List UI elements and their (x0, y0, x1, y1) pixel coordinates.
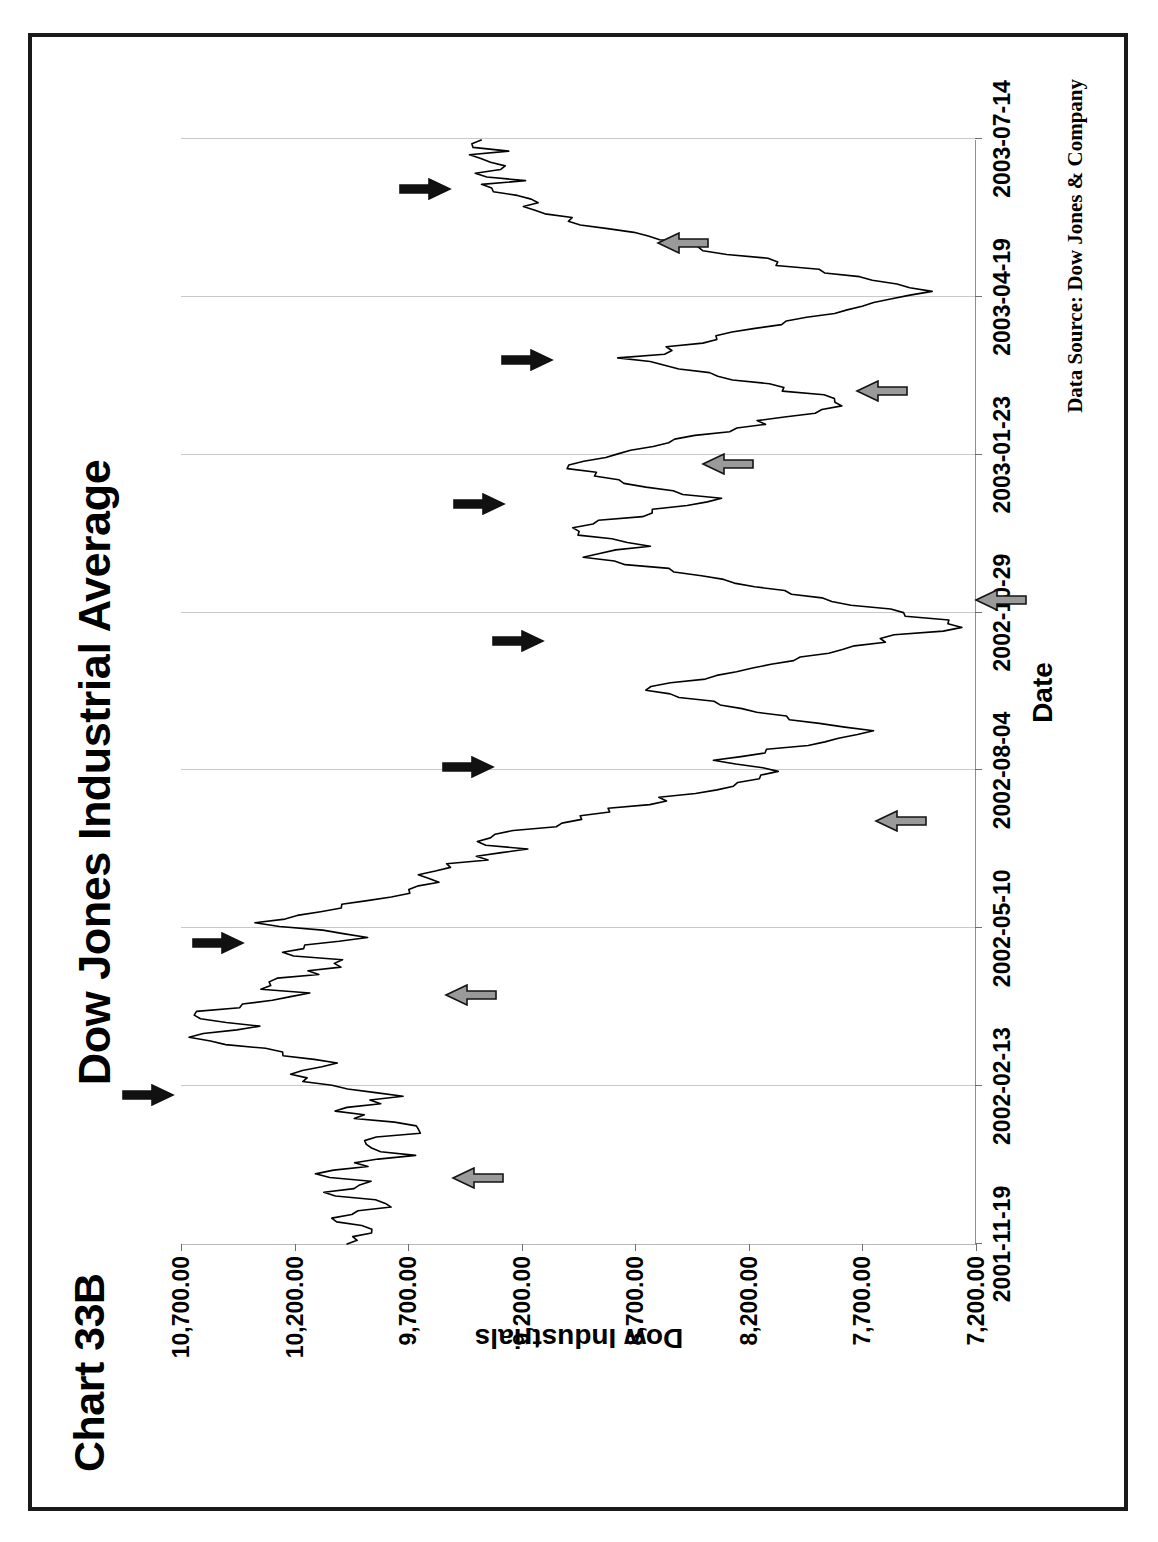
plot-area: 10,700.0010,200.009,700.009,200.008,700.… (181, 140, 976, 1245)
y-tick-mark (976, 1244, 977, 1251)
y-tick-label: 7,200.00 (962, 1256, 989, 1346)
rotated-chart-stage: Chart 33B Dow Jones Industrial Average D… (61, 65, 1096, 1480)
peak-marker-2-arrow-icon (191, 932, 247, 954)
data-source-note: Data Source: Dow Jones & Company (1063, 79, 1088, 413)
trough-marker-7-arrow-icon (655, 231, 711, 253)
y-tick-label: 9,200.00 (508, 1256, 535, 1346)
y-tick-mark (181, 1244, 182, 1251)
page-border: Chart 33B Dow Jones Industrial Average D… (28, 33, 1128, 1511)
peak-marker-5-arrow-icon (452, 492, 508, 514)
x-tick-label: 2002-05-10 (989, 869, 1016, 987)
trough-marker-4-arrow-icon (973, 588, 1029, 610)
x-tick-mark (975, 1085, 982, 1086)
y-tick-mark (862, 1244, 863, 1251)
plot-inner (181, 140, 975, 1244)
x-tick-label: 2001-11-19 (989, 1185, 1016, 1301)
x-tick-label: 2003-01-23 (989, 395, 1016, 513)
series-line-dow-industrials (189, 140, 962, 1244)
peak-marker-4-arrow-icon (490, 629, 546, 651)
y-tick-mark (748, 1244, 749, 1251)
trough-marker-2-arrow-icon (444, 984, 500, 1006)
x-tick-label: 2003-04-19 (989, 238, 1016, 356)
x-tick-mark (975, 138, 982, 139)
y-tick-mark (294, 1244, 295, 1251)
chart-title: Dow Jones Industrial Average (69, 65, 121, 1480)
y-tick-mark (635, 1244, 636, 1251)
x-axis-title: Date (1027, 140, 1059, 1245)
x-tick-mark (975, 453, 982, 454)
y-tick-label: 9,700.00 (394, 1256, 421, 1346)
x-tick-label: 2003-07-14 (989, 80, 1016, 198)
x-tick-label: 2002-02-13 (989, 1027, 1016, 1145)
y-tick-mark (408, 1244, 409, 1251)
x-tick-mark (975, 611, 982, 612)
x-tick-label: 2002-08-04 (989, 711, 1016, 829)
y-tick-label: 7,700.00 (848, 1256, 875, 1346)
peak-marker-6-arrow-icon (499, 349, 555, 371)
y-axis-title: Dow Industrials (474, 1321, 682, 1353)
y-tick-mark (521, 1244, 522, 1251)
y-tick-label: 8,700.00 (621, 1256, 648, 1346)
trough-marker-6-arrow-icon (855, 379, 911, 401)
x-tick-mark (975, 927, 982, 928)
x-tick-label: 2002-10-29 (989, 553, 1016, 671)
peak-marker-7-arrow-icon (397, 177, 453, 199)
series-layer (181, 140, 975, 1244)
y-tick-label: 8,200.00 (735, 1256, 762, 1346)
trough-marker-1-arrow-icon (451, 1166, 507, 1188)
y-tick-label: 10,700.00 (167, 1256, 194, 1358)
chart-canvas: Chart 33B Dow Jones Industrial Average D… (61, 65, 1096, 1480)
peak-marker-1-arrow-icon (120, 1083, 176, 1105)
x-tick-mark (975, 295, 982, 296)
trough-marker-5-arrow-icon (700, 452, 756, 474)
x-gridline (181, 138, 975, 139)
x-tick-mark (975, 769, 982, 770)
peak-marker-3-arrow-icon (440, 755, 496, 777)
y-tick-label: 10,200.00 (281, 1256, 308, 1358)
trough-marker-3-arrow-icon (873, 809, 929, 831)
